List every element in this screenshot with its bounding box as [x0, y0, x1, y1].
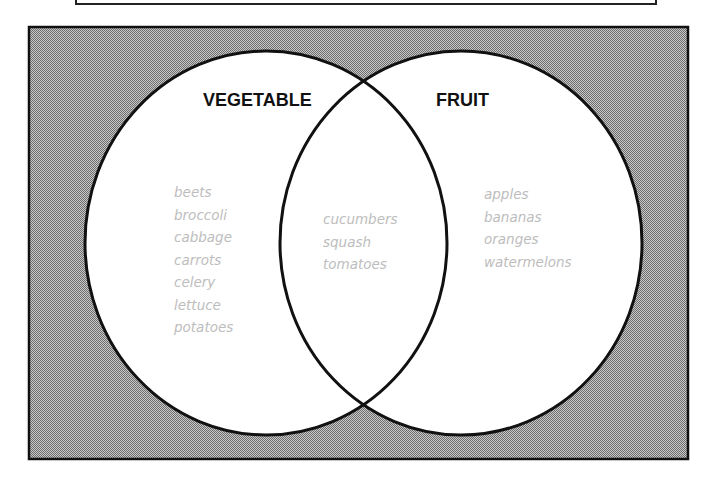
fruit-label: FRUIT: [436, 90, 489, 111]
vegetable-only-list: beets broccoli cabbage carrots celery le…: [174, 181, 233, 339]
list-item: tomatoes: [323, 253, 398, 276]
intersection-list: cucumbers squash tomatoes: [323, 208, 398, 276]
list-item: potatoes: [174, 316, 233, 339]
list-item: apples: [484, 183, 572, 206]
list-item: beets: [174, 181, 233, 204]
list-item: lettuce: [174, 294, 233, 317]
list-item: celery: [174, 271, 233, 294]
list-item: watermelons: [484, 251, 572, 274]
list-item: bananas: [484, 206, 572, 229]
list-item: oranges: [484, 228, 572, 251]
list-item: squash: [323, 231, 398, 254]
vegetable-label: VEGETABLE: [203, 90, 312, 111]
fruit-only-list: apples bananas oranges watermelons: [484, 183, 572, 273]
list-item: carrots: [174, 249, 233, 272]
list-item: cabbage: [174, 226, 233, 249]
list-item: cucumbers: [323, 208, 398, 231]
list-item: broccoli: [174, 204, 233, 227]
